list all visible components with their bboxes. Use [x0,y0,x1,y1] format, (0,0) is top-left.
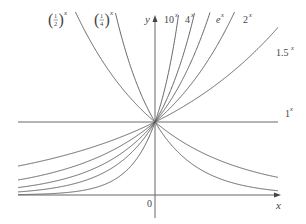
svg-text:x: x [190,11,194,18]
curve-1-2-x [76,12,279,177]
curve-4-x [18,13,195,192]
y-axis-label: y [144,13,150,25]
label-4-x: 4 x [185,11,194,25]
label-1-x: 1 x [285,105,293,119]
svg-text:10: 10 [164,14,174,25]
svg-text:x: x [174,11,178,18]
curve-e-x [18,12,210,187]
svg-text:x: x [220,11,224,18]
label-10-x: 10 x [164,11,178,25]
label-2-x: 2 x [243,11,252,25]
origin-label: 0 [147,198,152,209]
svg-text:(: ( [48,11,53,29]
label-half-x: ( 1 2 ) x [48,9,68,29]
curves-group [18,12,278,195]
svg-text:1: 1 [54,12,57,19]
curve-1-4-x [116,13,279,191]
x-axis-label: x [275,199,281,211]
exponential-functions-chart: x y 0 ( 1 2 ) x ( 1 4 ) x 10 x 4 x e x 2… [0,0,306,224]
svg-text:x: x [289,105,293,112]
svg-text:x: x [290,44,294,51]
svg-text:4: 4 [185,14,190,25]
label-1-5-x: 1.5 x [276,44,294,58]
svg-text:x: x [109,9,114,17]
svg-text:x: x [63,9,68,17]
curve-10-x [18,15,179,195]
svg-text:x: x [248,11,252,18]
label-e-x: e x [216,11,224,25]
label-quarter-x: ( 1 4 ) x [94,9,114,29]
svg-text:2: 2 [54,20,57,27]
svg-text:4: 4 [100,20,104,27]
svg-text:2: 2 [243,14,248,25]
y-axis-arrow-icon [153,15,158,22]
svg-text:1: 1 [100,12,103,19]
curve-2-x [18,12,235,180]
svg-text:1.5: 1.5 [276,47,289,58]
svg-text:(: ( [94,11,99,29]
x-axis-arrow-icon [274,193,281,198]
curve-1-5-x [18,27,278,166]
